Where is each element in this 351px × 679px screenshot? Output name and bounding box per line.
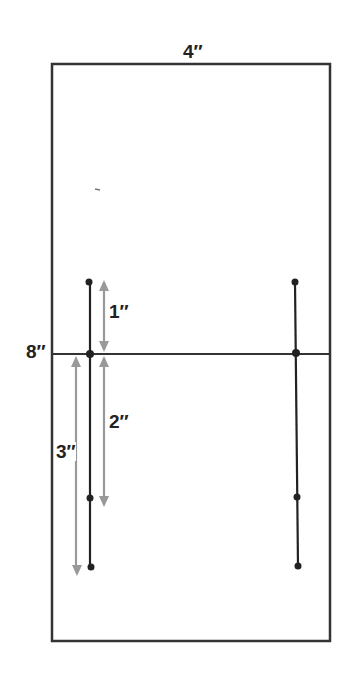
hole-dot (88, 564, 95, 571)
hole-dot (294, 494, 301, 501)
measure-label-1: 1″ (109, 302, 129, 321)
right-hole-line (295, 282, 298, 566)
measure-arrow-2 (99, 356, 109, 507)
hole-dot (86, 279, 93, 286)
measure-label-2: 2″ (109, 412, 129, 431)
measure-label-3: 3″ (56, 442, 76, 461)
width-label: 4″ (183, 42, 203, 61)
small-mark (95, 189, 100, 190)
hole-dot (292, 349, 300, 357)
measure-arrow-1 (99, 280, 109, 352)
hole-dot (292, 279, 299, 286)
hole-dot (295, 563, 302, 570)
measure-arrow-3 (71, 356, 82, 576)
diagram-canvas (0, 0, 351, 679)
hole-dot (87, 495, 94, 502)
height-label: 8″ (26, 342, 46, 361)
hole-dot (86, 350, 94, 358)
